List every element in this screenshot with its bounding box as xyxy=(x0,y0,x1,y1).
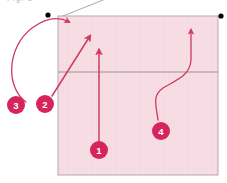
callout-marker-2-label: 2 xyxy=(42,99,47,110)
top-right-node-dot xyxy=(218,13,223,18)
leader-line xyxy=(58,0,108,18)
callout-marker-4-label: 4 xyxy=(158,126,164,137)
callout-marker-1[interactable]: 1 xyxy=(90,141,108,159)
leader-line-group xyxy=(58,0,108,18)
callout-marker-4[interactable]: 4 xyxy=(152,122,170,140)
figure-canvas: Fig. 1 xyxy=(0,0,227,183)
callout-marker-2[interactable]: 2 xyxy=(36,95,54,113)
main-panel xyxy=(58,16,218,175)
technical-diagram: 1 2 3 4 xyxy=(0,0,227,183)
callout-marker-3-label: 3 xyxy=(13,100,18,111)
top-left-node-dot xyxy=(45,12,50,17)
panel-group xyxy=(58,16,218,175)
callout-marker-3[interactable]: 3 xyxy=(7,96,25,114)
callout-marker-1-label: 1 xyxy=(96,145,102,156)
